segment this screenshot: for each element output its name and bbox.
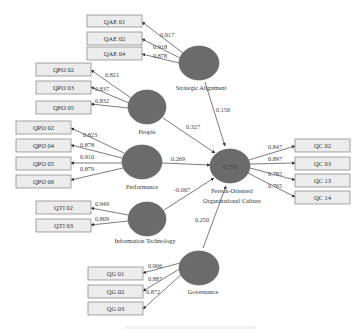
loading-qc14: 0.765 [268, 182, 282, 189]
svg-text:QPO 06: QPO 06 [33, 178, 55, 185]
svg-text:QTI 03: QTI 03 [54, 222, 73, 229]
svg-text:Person-Oriented: Person-Oriented [211, 187, 253, 194]
loading-qg02: 0.887 [148, 275, 162, 282]
svg-text:QPO 04: QPO 04 [33, 142, 55, 149]
loading-qc13: 0.785 [268, 170, 282, 177]
indicator-people-qpo02: QPO 02 [36, 63, 91, 76]
loading-qae02: 0.918 [153, 43, 167, 50]
svg-text:Performance: Performance [126, 183, 158, 190]
indicator-qae01: QAE 01 [87, 15, 142, 27]
loading-people-qpo05: 0.832 [95, 97, 109, 104]
path-performance: 0.269 [171, 155, 185, 162]
svg-text:QAE 02: QAE 02 [104, 35, 125, 42]
svg-text:QAE 04: QAE 04 [104, 50, 126, 57]
edges-performance [71, 128, 124, 180]
construct-governance: Governance [179, 251, 219, 295]
svg-text:QG 02: QG 02 [107, 288, 125, 295]
indicator-qc03: QC 03 [295, 157, 350, 170]
indicator-qae02: QAE 02 [87, 32, 142, 45]
loading-perf-qpo05: 0.910 [80, 153, 94, 160]
svg-text:People: People [138, 128, 155, 135]
svg-text:QG 03: QG 03 [107, 305, 125, 312]
loading-qg03: 0.872 [146, 288, 160, 295]
indicator-perf-qpo06: QPO 06 [16, 175, 71, 188]
construct-person-oriented-culture: 0.753 Person-Oriented Organizational Cul… [203, 149, 261, 204]
svg-text:QAE 01: QAE 01 [104, 18, 125, 25]
path-information-technology: -0.067 [174, 186, 190, 193]
loading-qc03: 0.897 [268, 155, 282, 162]
indicator-people-qpo03: QPO 03 [36, 81, 91, 94]
loading-perf-qpo02: 0.823 [83, 131, 97, 138]
path-governance: 0.250 [195, 216, 209, 223]
svg-text:QC 03: QC 03 [314, 160, 331, 167]
construct-people: People [128, 90, 166, 135]
indicator-perf-qpo05: QPO 05 [16, 157, 71, 170]
svg-text:QPO 03: QPO 03 [53, 84, 74, 91]
indicator-perf-qpo04: QPO 04 [16, 139, 71, 152]
indicator-qg02: QG 02 [88, 285, 143, 298]
svg-text:QC 13: QC 13 [314, 177, 331, 184]
indicator-qg03: QG 03 [88, 302, 143, 315]
path-strategic-alignment: 0.156 [216, 106, 230, 113]
indicator-qae04: QAE 04 [87, 47, 142, 60]
loading-qae04: 0.878 [153, 52, 167, 59]
indicator-qc14: QC 14 [295, 191, 350, 204]
faint-caption [125, 326, 255, 329]
loading-qc02: 0.847 [268, 143, 282, 150]
svg-text:QPO 02: QPO 02 [53, 66, 74, 73]
indicator-perf-qpo02: QPO 02 [16, 121, 71, 134]
loading-people-qpo03: 0.837 [95, 85, 109, 92]
loading-qae01: 0.917 [160, 31, 174, 38]
loading-qti03: 0.809 [95, 215, 109, 222]
loading-perf-qpo04: 0.878 [80, 141, 94, 148]
construct-strategic-alignment: Strategic Alignment [176, 46, 227, 91]
structural-model-diagram: 0.917 0.918 0.878 0.821 0.837 0.832 0.82… [0, 0, 360, 333]
indicator-qg01: QG 01 [88, 267, 143, 280]
svg-text:Strategic Alignment: Strategic Alignment [176, 84, 227, 91]
svg-text:QC 02: QC 02 [314, 142, 331, 149]
edges-governance [143, 263, 183, 309]
svg-text:QC 14: QC 14 [314, 194, 332, 201]
path-people: 0.327 [186, 123, 200, 130]
indicator-qti03: QTI 03 [36, 219, 91, 232]
loading-perf-qpo06: 0.879 [80, 165, 94, 172]
svg-text:QPO 02: QPO 02 [33, 124, 54, 131]
svg-text:QPO 05: QPO 05 [33, 160, 54, 167]
svg-text:QPO 05: QPO 05 [53, 104, 74, 111]
svg-text:Information Technology: Information Technology [114, 237, 176, 244]
svg-text:QTI 02: QTI 02 [54, 204, 73, 211]
svg-text:Organizational Culture: Organizational Culture [203, 197, 261, 204]
loading-people-qpo02: 0.821 [105, 71, 119, 78]
indicator-people-qpo05: QPO 05 [36, 101, 91, 114]
indicator-qc13: QC 13 [295, 174, 350, 187]
svg-text:QG 01: QG 01 [107, 270, 125, 277]
svg-text:Governance: Governance [188, 288, 219, 295]
r-squared-value: 0.753 [223, 163, 237, 170]
indicator-qc02: QC 02 [295, 139, 350, 152]
loading-qg01: 0.906 [148, 262, 162, 269]
loading-qti02: 0.949 [95, 200, 109, 207]
construct-performance: Performance [122, 145, 162, 190]
indicator-qti02: QTI 02 [36, 201, 91, 214]
